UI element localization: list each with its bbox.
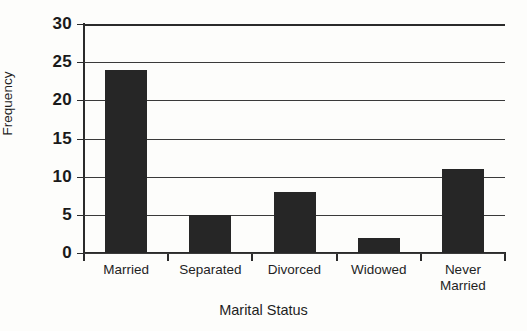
y-tick-label-10: 10 — [42, 167, 72, 187]
gridline-20 — [84, 100, 505, 101]
x-tick — [504, 254, 506, 261]
gridline-0 — [84, 253, 505, 254]
gridline-25 — [84, 62, 505, 63]
y-tick-label-15: 15 — [42, 129, 72, 149]
x-tick-label: Widowed — [337, 262, 421, 278]
bar — [189, 215, 231, 253]
y-tick-label-30: 30 — [42, 14, 72, 34]
y-tick-label-5: 5 — [42, 205, 72, 225]
gridline-30 — [84, 24, 505, 26]
plot-area — [84, 24, 505, 253]
y-tick-10 — [77, 177, 84, 178]
y-tick-20 — [77, 100, 84, 101]
x-tick — [83, 254, 85, 261]
x-tick-label: Separated — [168, 262, 252, 278]
bar — [105, 70, 147, 253]
y-tick-25 — [77, 62, 84, 63]
gridline-15 — [84, 139, 505, 140]
bar — [274, 192, 316, 253]
x-tick-label: Married — [84, 262, 168, 278]
x-tick-label: Divorced — [252, 262, 336, 278]
y-tick-label-20: 20 — [42, 90, 72, 110]
x-tick-label: Never Married — [421, 262, 505, 294]
bar-chart-figure: Frequency 051015202530 MarriedSeparatedD… — [0, 0, 527, 331]
y-axis-title: Frequency — [0, 72, 15, 136]
x-tick — [420, 254, 422, 261]
x-axis-title: Marital Status — [0, 302, 527, 318]
y-tick-30 — [77, 24, 84, 25]
y-tick-5 — [77, 215, 84, 216]
x-tick — [336, 254, 338, 261]
y-tick-15 — [77, 139, 84, 140]
x-tick — [167, 254, 169, 261]
y-tick-label-0: 0 — [42, 243, 72, 263]
bar — [358, 238, 400, 253]
y-tick-label-25: 25 — [42, 52, 72, 72]
x-tick — [251, 254, 253, 261]
bar — [442, 169, 484, 253]
